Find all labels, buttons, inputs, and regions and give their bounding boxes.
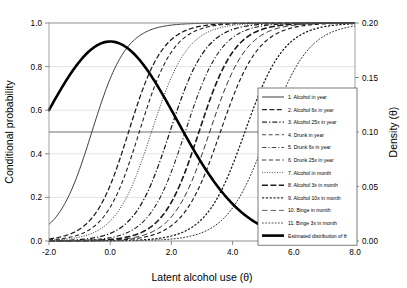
legend-label-8[interactable]: 8. Alcohol 3x in month — [288, 182, 338, 188]
legend-label-6[interactable]: 6. Drunk 25x in year — [288, 157, 334, 163]
y-right-tick-label: 0.05 — [362, 183, 378, 192]
legend-label-11[interactable]: 11. Binge 3x in month — [288, 220, 337, 226]
chart-legend[interactable]: 1. Alcohol in year2. Alcohol 6x in year3… — [258, 88, 357, 245]
y-left-tick-label: 0.4 — [31, 150, 43, 159]
y-right-tick-label: 0.00 — [362, 237, 378, 246]
chart-figure: -2.00.02.04.06.08.0 0.00.20.40.60.81.0 0… — [0, 0, 407, 288]
x-tick-label: 4.0 — [227, 248, 239, 257]
y-right-tick-label: 0.20 — [362, 19, 378, 28]
x-tick-label: 6.0 — [288, 248, 300, 257]
alcohol-irt-curve-chart: -2.00.02.04.06.08.0 0.00.20.40.60.81.0 0… — [0, 0, 407, 288]
legend-label-3[interactable]: 3. Alcohol 25x in year — [288, 119, 337, 125]
legend-label-9[interactable]: 9. Alcohol 10x in month — [288, 195, 341, 201]
y-axis-left-title: Conditional probability — [3, 80, 15, 184]
legend-label-1[interactable]: 1. Alcohol in year — [288, 94, 327, 100]
legend-label-7[interactable]: 7. Alcohol in month — [288, 170, 331, 176]
x-tick-label: 2.0 — [166, 248, 178, 257]
y-axis-right-ticks: 0.000.050.100.150.20 — [355, 19, 378, 246]
legend-label-2[interactable]: 2. Alcohol 6x in year — [288, 107, 334, 113]
x-axis-title: Latent alcohol use (θ) — [152, 271, 253, 283]
legend-label-5[interactable]: 5. Drunk 6x in year — [288, 144, 331, 150]
legend-label-10[interactable]: 10. Binge in month — [288, 207, 331, 213]
y-left-tick-label: 0.0 — [31, 237, 43, 246]
y-left-tick-label: 0.8 — [31, 63, 43, 72]
x-tick-label: 8.0 — [349, 248, 361, 257]
x-tick-label: -2.0 — [42, 248, 57, 257]
x-tick-label: 0.0 — [105, 248, 117, 257]
y-right-tick-label: 0.10 — [362, 128, 378, 137]
y-left-tick-label: 0.2 — [31, 193, 43, 202]
legend-label-4[interactable]: 4. Drunk in year — [288, 132, 324, 138]
y-left-tick-label: 1.0 — [31, 19, 43, 28]
y-axis-left-ticks: 0.00.20.40.60.81.0 — [31, 19, 49, 246]
y-axis-right-title: Density (θ) — [387, 107, 399, 158]
y-right-tick-label: 0.15 — [362, 74, 378, 83]
y-left-tick-label: 0.6 — [31, 106, 43, 115]
legend-label-12[interactable]: Estimated distribution of θ — [288, 233, 347, 239]
